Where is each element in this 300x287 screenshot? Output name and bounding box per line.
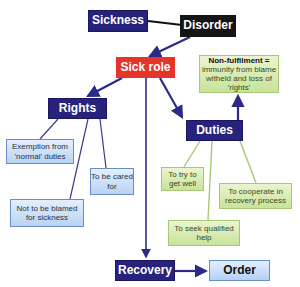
node-seek-help: To seek qualified help <box>168 220 240 246</box>
node-recovery: Recovery <box>115 260 175 281</box>
node-non-fulfilment: Non-fulfilment = immunity from blame wit… <box>199 55 279 93</box>
link-rights-caredfor <box>100 119 106 168</box>
node-not-blamed: Not to be blamed for sickness <box>10 199 84 227</box>
node-sick-role: Sick role <box>116 57 175 78</box>
node-duties: Duties <box>186 120 243 141</box>
node-sickness: Sickness <box>88 10 148 32</box>
link-sickness-disorder <box>148 21 182 25</box>
link-duties-cooperate <box>240 141 256 183</box>
non-fulfilment-body: immunity from blame witheld and loss of … <box>200 65 278 93</box>
link-duties-seekhelp <box>208 141 212 220</box>
arrow-disorder-sickrole <box>150 37 190 56</box>
node-disorder: Disorder <box>180 15 236 37</box>
link-rights-exemption <box>40 119 58 139</box>
node-rights: Rights <box>48 98 107 119</box>
node-exemption: Exemption from 'normal' duties <box>6 139 74 164</box>
node-order: Order <box>209 260 270 281</box>
non-fulfilment-title: Non-fulfilment = <box>208 56 269 65</box>
node-cared-for: To be cared for <box>90 168 134 195</box>
arrow-sickrole-duties <box>160 78 182 117</box>
arrow-sickrole-rights <box>88 78 122 96</box>
node-try-get-well: To try to get well <box>161 167 204 191</box>
link-duties-trygetwell <box>184 141 200 167</box>
node-cooperate: To cooperate in recovery process <box>219 183 292 209</box>
